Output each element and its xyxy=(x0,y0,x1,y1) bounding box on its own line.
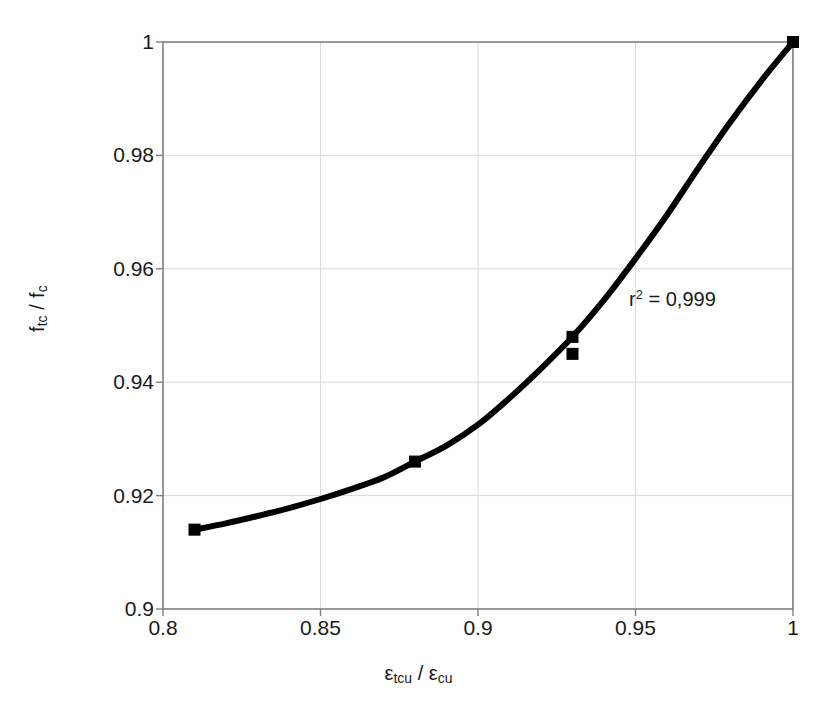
y-axis-title-base-2: f xyxy=(26,292,48,298)
y-axis-title-sub-2: c xyxy=(34,285,50,292)
x-axis-title: εtcu / εcu xyxy=(0,662,837,686)
y-axis-title: ftc / fc xyxy=(26,292,50,332)
y-axis-title-sub-1: tc xyxy=(34,315,50,326)
y-axis-title-separator: / xyxy=(26,298,48,315)
x-axis-title-sub-1: tcu xyxy=(393,670,412,686)
x-tick-label: 0.85 xyxy=(261,617,381,638)
r-squared-exponent: 2 xyxy=(636,287,643,302)
x-tick-label: 0.95 xyxy=(576,617,696,638)
y-axis-title-base-1: f xyxy=(26,326,48,332)
chart-figure: 0.90.920.940.960.981 0.80.850.90.951 ftc… xyxy=(0,0,837,724)
r-squared-prefix: r xyxy=(629,288,636,310)
r-squared-value: = 0,999 xyxy=(643,288,716,310)
x-tick-label: 0.8 xyxy=(103,617,223,638)
x-axis-title-base-2: ε xyxy=(429,662,438,684)
x-axis-title-separator: / xyxy=(412,662,429,684)
x-axis-title-sub-2: cu xyxy=(438,670,453,686)
x-tick-label: 0.9 xyxy=(418,617,538,638)
x-axis-tick-labels: 0.80.850.90.951 xyxy=(0,0,837,724)
r-squared-annotation: r2 = 0,999 xyxy=(629,287,716,311)
x-tick-label: 1 xyxy=(733,617,837,638)
